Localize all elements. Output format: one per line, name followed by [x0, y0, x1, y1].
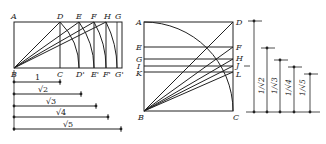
- label-d-right: D: [235, 18, 243, 27]
- label-unit: 1: [35, 73, 40, 82]
- diagonal-bf: [14, 22, 94, 68]
- label-sqrt5: √5: [63, 120, 73, 129]
- label-b-left: B: [10, 70, 17, 79]
- label-inv-sqrt5: 1/√5: [298, 79, 307, 96]
- diagonal-bf: [144, 47, 233, 111]
- label-inv-sqrt3: 1/√3: [270, 77, 279, 94]
- label-gprime-left: G': [115, 70, 124, 79]
- diagonal-bl: [144, 72, 233, 111]
- label-b-right: B: [137, 113, 144, 122]
- label-j-right: J: [234, 61, 240, 70]
- label-a-left: A: [10, 12, 17, 21]
- label-l-right: L: [235, 70, 241, 79]
- arc-h-to-gprime: [106, 22, 117, 68]
- diagonal-bj: [144, 66, 233, 111]
- label-e-right: E: [135, 43, 142, 52]
- label-f-right: F: [235, 43, 242, 52]
- label-inv-sqrt2: 1/√2: [257, 77, 266, 94]
- label-sqrt2: √2: [38, 85, 48, 94]
- label-d-left: D: [56, 12, 64, 21]
- label-e-left: E: [75, 12, 82, 21]
- right-bar-endpoints: [253, 20, 312, 114]
- label-eprime-left: E': [90, 70, 99, 79]
- label-dprime-left: D': [75, 70, 85, 79]
- label-sqrt4: √4: [56, 108, 66, 117]
- diagonal-be: [14, 22, 79, 68]
- label-c-right: C: [233, 113, 239, 122]
- label-fprime-left: F': [102, 70, 111, 79]
- root-rectangles-diagram: A D E F H G B C D' E' F' G' 1 √2 √3 √4 √…: [0, 0, 326, 144]
- label-f-left: F: [90, 12, 97, 21]
- label-k-right: K: [135, 69, 143, 78]
- label-a-right: A: [135, 18, 142, 27]
- label-g-left: G: [115, 12, 122, 21]
- label-h-left: H: [103, 12, 112, 21]
- arc-f-to-fprime: [94, 22, 106, 68]
- label-inv-sqrt4: 1/√4: [284, 79, 293, 96]
- label-sqrt3: √3: [46, 97, 56, 106]
- label-c-left: C: [57, 70, 63, 79]
